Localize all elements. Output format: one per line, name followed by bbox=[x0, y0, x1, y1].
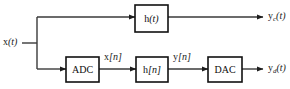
adc-output-arg: [n] bbox=[109, 51, 122, 62]
digital-filter-label: h[n] bbox=[136, 57, 168, 82]
adc-label: ADC bbox=[66, 57, 99, 82]
dac-label-text: DAC bbox=[214, 65, 235, 75]
dac-label: DAC bbox=[208, 57, 242, 82]
adc-output-signal-label: x[n] bbox=[104, 52, 122, 62]
digital-filter-output-signal-label: y[n] bbox=[173, 52, 191, 62]
output-discrete-label: yd(t) bbox=[268, 63, 286, 73]
digital-filter-output-arg: [n] bbox=[178, 51, 191, 62]
output-discrete-subscript: d bbox=[273, 67, 277, 75]
output-discrete-arg: (t) bbox=[277, 62, 286, 73]
output-continuous-label: yc(t) bbox=[268, 11, 286, 21]
output-continuous-subscript: c bbox=[273, 15, 276, 23]
output-continuous-arg: (t) bbox=[276, 10, 285, 21]
input-signal-label: x(t) bbox=[3, 37, 17, 47]
input-signal-arg: (t) bbox=[8, 36, 17, 47]
block-diagram-figure: x(t) h(t) yc(t) ADC x[n] h[n] y[n] DAC y… bbox=[0, 0, 290, 89]
analog-filter-label: h(t) bbox=[135, 5, 168, 32]
digital-filter-arg: [n] bbox=[148, 65, 161, 75]
analog-filter-arg: (t) bbox=[149, 14, 158, 24]
adc-label-text: ADC bbox=[72, 65, 93, 75]
